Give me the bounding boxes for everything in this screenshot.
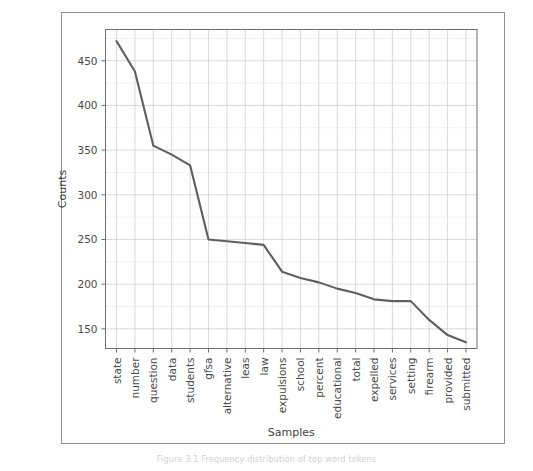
figure-container: 150200250300350400450statenumberquestion… <box>0 0 533 471</box>
x-tick-label: expelled <box>368 358 380 403</box>
x-tick-label: law <box>258 357 270 375</box>
x-tick-label: total <box>350 358 362 382</box>
line-chart: 150200250300350400450statenumberquestion… <box>0 0 533 471</box>
figure-caption: Figure 3.1 Frequency distribution of top… <box>0 455 533 471</box>
x-tick-label: leas <box>239 358 251 379</box>
y-tick-label: 350 <box>77 144 97 156</box>
x-tick-label: question <box>147 358 159 403</box>
y-axis-label: Counts <box>56 170 69 209</box>
figure-caption-text: Figure 3.1 Frequency distribution of top… <box>0 455 533 464</box>
x-tick-label: number <box>129 357 141 399</box>
x-tick-label: alternative <box>221 358 233 415</box>
y-tick-label: 300 <box>77 189 97 201</box>
x-tick-label: gfsa <box>202 358 214 380</box>
x-tick-label: setting <box>405 358 417 394</box>
x-tick-label: percent <box>313 358 325 398</box>
y-tick-label: 250 <box>77 233 97 245</box>
x-tick-label: provided <box>442 358 454 404</box>
y-tick-label: 200 <box>77 278 97 290</box>
x-tick-label: state <box>111 358 123 385</box>
x-tick-label: students <box>184 358 196 404</box>
x-tick-label: firearm <box>423 358 435 396</box>
y-tick-label: 150 <box>77 323 97 335</box>
x-tick-label: submitted <box>460 358 472 411</box>
x-tick-label: school <box>294 358 306 392</box>
x-tick-label: data <box>166 358 178 382</box>
x-tick-label: services <box>386 358 398 401</box>
x-tick-label: educational <box>331 358 343 419</box>
plot-axes-box <box>106 30 478 349</box>
x-tick-label: expulsions <box>276 358 288 414</box>
y-tick-label: 450 <box>77 55 97 67</box>
x-axis-label: Samples <box>268 426 315 439</box>
y-tick-label: 400 <box>77 99 97 111</box>
data-series-line <box>117 41 466 342</box>
